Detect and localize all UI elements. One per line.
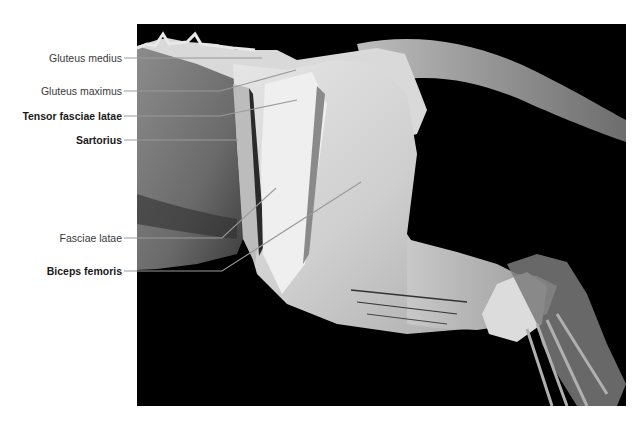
leader-gluteus-maximus xyxy=(124,70,296,91)
leader-lines xyxy=(0,0,644,427)
leader-fasciae-latae xyxy=(124,188,276,238)
leader-biceps-femoris xyxy=(124,182,361,271)
leader-tensor-fasciae-latae xyxy=(124,100,297,116)
